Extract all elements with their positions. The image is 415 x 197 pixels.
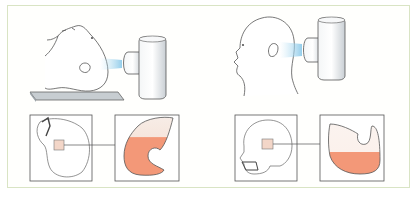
ear-highlight-box [262,139,273,149]
beam-right [280,42,302,58]
stimulator-device-left [124,36,167,99]
upright-head-scene [234,17,345,96]
skull-top-view-box [30,115,92,181]
beam-left [100,58,122,70]
stimulator-device-right [304,17,346,80]
skull-side-view-box [235,115,297,181]
fluid-chamber-left [115,115,179,181]
fluid-chamber-right [320,115,384,181]
platform [30,92,124,100]
supine-head-outline [45,26,108,92]
supine-head-scene [30,26,166,102]
ear-highlight-box [54,140,64,150]
illustration [0,0,415,197]
